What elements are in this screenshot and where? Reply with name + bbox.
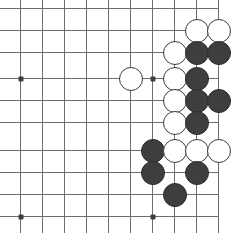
grid-line-vertical-3 — [64, 0, 65, 233]
black-stone — [185, 67, 209, 91]
star-point-1 — [18, 76, 23, 81]
grid-line-vertical-1 — [20, 0, 21, 233]
white-stone — [163, 41, 187, 65]
white-stone — [163, 139, 187, 163]
white-stone — [163, 89, 187, 113]
white-stone — [119, 67, 143, 91]
black-stone — [141, 161, 165, 185]
black-stone — [185, 161, 209, 185]
white-stone — [207, 139, 231, 163]
black-stone — [185, 41, 209, 65]
white-stone — [163, 111, 187, 135]
star-point-4 — [150, 214, 155, 219]
star-point-3 — [18, 214, 23, 219]
black-stone — [141, 139, 165, 163]
grid-line-vertical-2 — [42, 0, 43, 233]
grid-line-vertical-5 — [108, 0, 109, 233]
go-board-diagram — [0, 0, 237, 233]
white-stone — [185, 19, 209, 43]
black-stone — [185, 111, 209, 135]
grid-line-vertical-7 — [152, 0, 153, 233]
grid-line-vertical-4 — [86, 0, 87, 233]
black-stone — [163, 183, 187, 207]
black-stone — [207, 89, 231, 113]
black-stone — [185, 89, 209, 113]
white-stone — [185, 139, 209, 163]
grid-line-horizontal-1 — [0, 8, 219, 9]
star-point-2 — [150, 76, 155, 81]
white-stone — [163, 67, 187, 91]
black-stone — [207, 41, 231, 65]
grid-line-horizontal-10 — [0, 216, 219, 217]
white-stone — [207, 19, 231, 43]
grid-line-vertical-6 — [130, 0, 131, 233]
